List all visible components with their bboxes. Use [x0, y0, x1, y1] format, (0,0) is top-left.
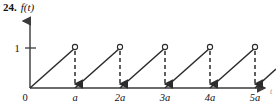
x-tick-label-3a: 3a: [159, 92, 171, 103]
x-tick-label-2a: 2a: [115, 92, 126, 103]
open-circle-marker-3: [162, 44, 167, 49]
figure-container: 24.f(t): [0, 0, 276, 109]
ramp-segment-1: [30, 48, 75, 88]
ramp-segment-5: [210, 48, 255, 88]
x-axis-variable-label: t: [270, 87, 273, 96]
ramp-segment-4: [165, 48, 210, 88]
x-tick-label-4a: 4a: [205, 92, 216, 103]
ramp-segment-6-partial: [255, 69, 276, 88]
open-circle-marker-1: [72, 44, 77, 49]
y-tick-label-1: 1: [14, 43, 19, 54]
x-tick-label-origin: 0: [22, 92, 27, 103]
ramp-segment-3: [120, 48, 165, 88]
open-circle-marker-2: [117, 44, 122, 49]
x-tick-label-5a: 5a: [250, 92, 261, 103]
open-circle-marker-4: [207, 44, 212, 49]
sawtooth-plot: 1 0 a 2a 3a 4a 5a t: [0, 0, 276, 109]
open-circle-marker-5: [252, 44, 257, 49]
ramp-segment-2: [75, 48, 120, 88]
x-tick-label-a: a: [72, 92, 77, 103]
